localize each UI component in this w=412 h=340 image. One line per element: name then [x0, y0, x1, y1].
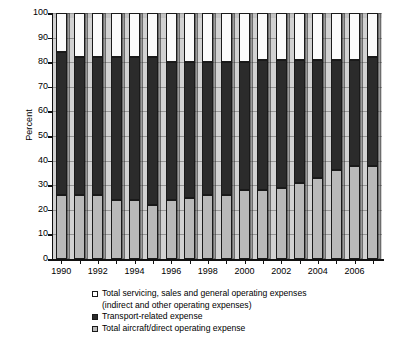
segment-servicing-sales-general	[331, 13, 342, 60]
segment-aircraft-direct	[312, 178, 323, 259]
x-axis-tick	[263, 259, 264, 264]
legend-item-label: Total aircraft/direct operating expense	[102, 323, 245, 335]
segment-aircraft-direct	[166, 200, 177, 259]
gray-square-icon	[92, 326, 98, 332]
x-axis-tick	[355, 259, 356, 264]
legend-item-0[interactable]: Total servicing, sales and general opera…	[92, 288, 392, 300]
segment-transport-related	[349, 60, 360, 166]
segment-servicing-sales-general	[92, 13, 103, 57]
segment-aircraft-direct	[92, 195, 103, 259]
bar-side-face	[342, 13, 345, 259]
black-square-icon	[92, 314, 98, 320]
segment-transport-related	[202, 62, 213, 195]
y-axis-labels: 0102030405060708090100	[16, 13, 48, 259]
bar-2007	[367, 13, 378, 259]
bar-2004	[312, 13, 323, 259]
bar-side-face	[158, 13, 161, 259]
segment-aircraft-direct	[147, 205, 158, 259]
stacked-bar-chart: Percent 0102030405060708090100 199019921…	[0, 0, 412, 340]
bar-1999	[221, 13, 232, 259]
y-axis-tick-label: 60	[22, 106, 48, 115]
segment-servicing-sales-general	[202, 13, 213, 62]
x-axis-tick-label: 2002	[264, 266, 298, 277]
bar-side-face	[213, 13, 216, 259]
segment-transport-related	[221, 62, 232, 195]
bar-series-container	[53, 13, 382, 259]
y-axis-tick-label: 80	[22, 57, 48, 66]
segment-transport-related	[294, 60, 305, 183]
segment-servicing-sales-general	[111, 13, 122, 57]
segment-servicing-sales-general	[276, 13, 287, 60]
chart-legend: Total servicing, sales and general opera…	[92, 288, 392, 334]
bar-2003	[294, 13, 305, 259]
bar-side-face	[122, 13, 125, 259]
segment-transport-related	[147, 57, 158, 205]
x-axis-tick	[171, 259, 172, 264]
legend-item-sublabel: (indirect and other operating expenses)	[102, 300, 392, 312]
x-axis-tick	[80, 259, 81, 264]
legend-item-1[interactable]: Transport-related expense	[92, 311, 392, 323]
segment-aircraft-direct	[276, 188, 287, 259]
bar-2002	[276, 13, 287, 259]
segment-transport-related	[56, 52, 67, 195]
x-axis-tick	[98, 259, 99, 264]
bar-1993	[111, 13, 122, 259]
x-axis-tick	[318, 259, 319, 264]
segment-transport-related	[92, 57, 103, 195]
x-axis-tick	[300, 259, 301, 264]
bar-side-face	[378, 13, 381, 259]
segment-aircraft-direct	[184, 198, 195, 260]
segment-servicing-sales-general	[166, 13, 177, 62]
bar-2000	[239, 13, 250, 259]
bar-side-face	[85, 13, 88, 259]
bar-side-face	[67, 13, 70, 259]
bar-1998	[202, 13, 213, 259]
segment-servicing-sales-general	[221, 13, 232, 62]
x-axis-labels: 199019921994199619982000200220042006	[0, 266, 412, 280]
bar-side-face	[287, 13, 290, 259]
segment-aircraft-direct	[111, 200, 122, 259]
segment-servicing-sales-general	[367, 13, 378, 57]
bar-side-face	[323, 13, 326, 259]
x-axis-tick-label: 2006	[338, 266, 372, 277]
x-axis-tick	[208, 259, 209, 264]
segment-servicing-sales-general	[56, 13, 67, 52]
segment-transport-related	[367, 57, 378, 165]
x-axis-tick	[281, 259, 282, 264]
bar-1990	[56, 13, 67, 259]
x-axis-tick	[190, 259, 191, 264]
segment-servicing-sales-general	[147, 13, 158, 57]
x-axis-ticks	[52, 259, 384, 265]
segment-aircraft-direct	[367, 166, 378, 259]
bar-2006	[349, 13, 360, 259]
y-axis-tick-label: 40	[22, 156, 48, 165]
y-axis-tick-label: 0	[22, 254, 48, 263]
segment-transport-related	[239, 62, 250, 190]
x-axis-tick-label: 2004	[301, 266, 335, 277]
segment-servicing-sales-general	[129, 13, 140, 57]
bar-1997	[184, 13, 195, 259]
segment-transport-related	[74, 57, 85, 195]
y-axis-tick-label: 50	[22, 131, 48, 140]
segment-aircraft-direct	[239, 190, 250, 259]
segment-transport-related	[111, 57, 122, 200]
bar-side-face	[140, 13, 143, 259]
segment-aircraft-direct	[202, 195, 213, 259]
x-axis-tick-label: 1996	[154, 266, 188, 277]
bar-1992	[92, 13, 103, 259]
bar-side-face	[305, 13, 308, 259]
x-axis-tick	[373, 259, 374, 264]
legend-item-2[interactable]: Total aircraft/direct operating expense	[92, 323, 392, 335]
bar-side-face	[232, 13, 235, 259]
segment-servicing-sales-general	[294, 13, 305, 60]
bar-side-face	[268, 13, 271, 259]
bar-side-face	[177, 13, 180, 259]
segment-servicing-sales-general	[239, 13, 250, 62]
legend-item-label: Total servicing, sales and general opera…	[102, 288, 306, 300]
segment-aircraft-direct	[257, 190, 268, 259]
bar-side-face	[195, 13, 198, 259]
y-axis-tick-label: 10	[22, 229, 48, 238]
bar-1991	[74, 13, 85, 259]
y-axis-tick-label: 70	[22, 82, 48, 91]
x-axis-tick	[61, 259, 62, 264]
